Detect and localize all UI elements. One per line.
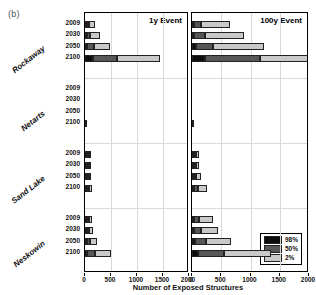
bar-rockaway-2030	[85, 32, 100, 39]
legend-label: 50%	[285, 246, 298, 253]
year-axis-labels: 2009203020502100200920302050210020092030…	[42, 0, 80, 295]
bar-segment-2pct	[205, 32, 244, 39]
year-tick-label: 2009	[66, 150, 80, 157]
year-tick-label: 2100	[66, 249, 80, 256]
bar-segment-2pct	[89, 173, 91, 180]
figure-container: (b) RockawayNetartsSand LakeNeskowin 200…	[0, 0, 316, 295]
legend-label: 98%	[285, 237, 298, 244]
legend-entry: 98%	[264, 236, 298, 244]
bar-rockaway-2009	[85, 21, 95, 28]
bar-segment-2pct	[90, 32, 100, 39]
bar-segment-2pct	[89, 227, 93, 234]
gridline-horizontal	[192, 78, 307, 79]
group-label-netarts: Netarts	[7, 108, 47, 142]
bar-sand-lake-2100	[85, 185, 92, 192]
year-tick-label: 2050	[66, 238, 80, 245]
bar-segment-2pct	[95, 250, 111, 257]
year-tick-label: 2030	[66, 96, 80, 103]
bar-segment-50pct	[205, 55, 261, 62]
bar-segment-2pct	[198, 185, 207, 192]
bar-netarts-2100	[85, 120, 87, 127]
bar-segment-2pct	[85, 120, 87, 127]
gridline-horizontal	[85, 78, 187, 79]
bar-segment-98pct	[192, 55, 205, 62]
bar-sand-lake-2050	[85, 173, 91, 180]
bar-sand-lake-2030	[192, 162, 199, 169]
year-tick-label: 2009	[66, 85, 80, 92]
bar-segment-2pct	[89, 21, 95, 28]
bar-segment-2pct	[206, 238, 231, 245]
bar-rockaway-2009	[192, 21, 230, 28]
bar-segment-2pct	[89, 162, 91, 169]
year-tick-label: 2030	[66, 31, 80, 38]
bar-neskowin-2030	[192, 227, 218, 234]
gridline-vertical	[280, 13, 281, 271]
bar-segment-50pct	[195, 238, 206, 245]
bar-segment-2pct	[89, 185, 92, 192]
bar-neskowin-2030	[85, 227, 93, 234]
year-tick-label: 2100	[66, 119, 80, 126]
x-tick-label: 2000	[301, 276, 315, 283]
bar-segment-2pct	[94, 43, 110, 50]
bar-segment-2pct	[196, 151, 199, 158]
bar-segment-50pct	[196, 43, 214, 50]
bar-rockaway-2100	[85, 55, 160, 62]
gridline-horizontal	[85, 143, 187, 144]
gridline-vertical	[137, 13, 138, 271]
bar-segment-50pct	[87, 250, 95, 257]
plot-title-1y: 1y Event	[149, 16, 182, 25]
x-tick-label: 0	[82, 276, 86, 283]
bar-sand-lake-2009	[192, 151, 199, 158]
gridline-vertical	[251, 13, 252, 271]
bar-segment-2pct	[201, 21, 230, 28]
bar-segment-50pct	[194, 32, 205, 39]
bar-neskowin-2100	[85, 250, 111, 257]
year-tick-label: 2050	[66, 108, 80, 115]
bar-segment-2pct	[199, 216, 213, 223]
year-tick-label: 2050	[66, 173, 80, 180]
x-tick-label: 1000	[129, 276, 143, 283]
group-label-rockaway: Rockaway	[7, 43, 47, 77]
bar-sand-lake-2030	[85, 162, 91, 169]
bar-sand-lake-2009	[85, 151, 91, 158]
bar-rockaway-2050	[192, 43, 264, 50]
year-tick-label: 2030	[66, 226, 80, 233]
bar-rockaway-2030	[192, 32, 244, 39]
bar-segment-98pct	[85, 55, 93, 62]
legend-label: 2%	[285, 255, 294, 262]
x-tick-label: 500	[105, 276, 116, 283]
bar-sand-lake-2100	[192, 185, 207, 192]
bar-neskowin-2100	[192, 250, 271, 257]
bar-segment-2pct	[196, 162, 199, 169]
gridline-vertical	[221, 13, 222, 271]
bar-segment-2pct	[201, 227, 218, 234]
bar-sand-lake-2050	[192, 173, 201, 180]
year-tick-label: 2100	[66, 184, 80, 191]
year-tick-label: 2009	[66, 215, 80, 222]
plot-panel-1y-event: 1y Event	[84, 12, 188, 272]
x-tick-label: 1500	[272, 276, 286, 283]
gridline-horizontal	[85, 208, 187, 209]
bar-segment-50pct	[194, 227, 201, 234]
bar-segment-2pct	[117, 55, 160, 62]
bar-segment-2pct	[213, 43, 264, 50]
year-tick-label: 2030	[66, 161, 80, 168]
bar-segment-2pct	[196, 173, 200, 180]
bar-segment-50pct	[87, 43, 94, 50]
year-tick-label: 2100	[66, 54, 80, 61]
bar-neskowin-2009	[85, 216, 92, 223]
bar-rockaway-2100	[192, 55, 308, 62]
x-axis-title: Number of Exposed Structures	[0, 283, 316, 292]
bar-segment-2pct	[89, 216, 92, 223]
gridline-horizontal	[192, 143, 307, 144]
gridline-vertical	[163, 13, 164, 271]
x-tick-label: 0	[189, 276, 193, 283]
x-tick-label: 500	[215, 276, 226, 283]
bar-neskowin-2050	[85, 238, 97, 245]
bar-netarts-2100	[192, 120, 194, 127]
gridline-horizontal	[192, 208, 307, 209]
bar-segment-2pct	[260, 55, 308, 62]
bar-segment-2pct	[224, 250, 270, 257]
bar-segment-2pct	[89, 151, 91, 158]
bar-segment-2pct	[90, 238, 97, 245]
